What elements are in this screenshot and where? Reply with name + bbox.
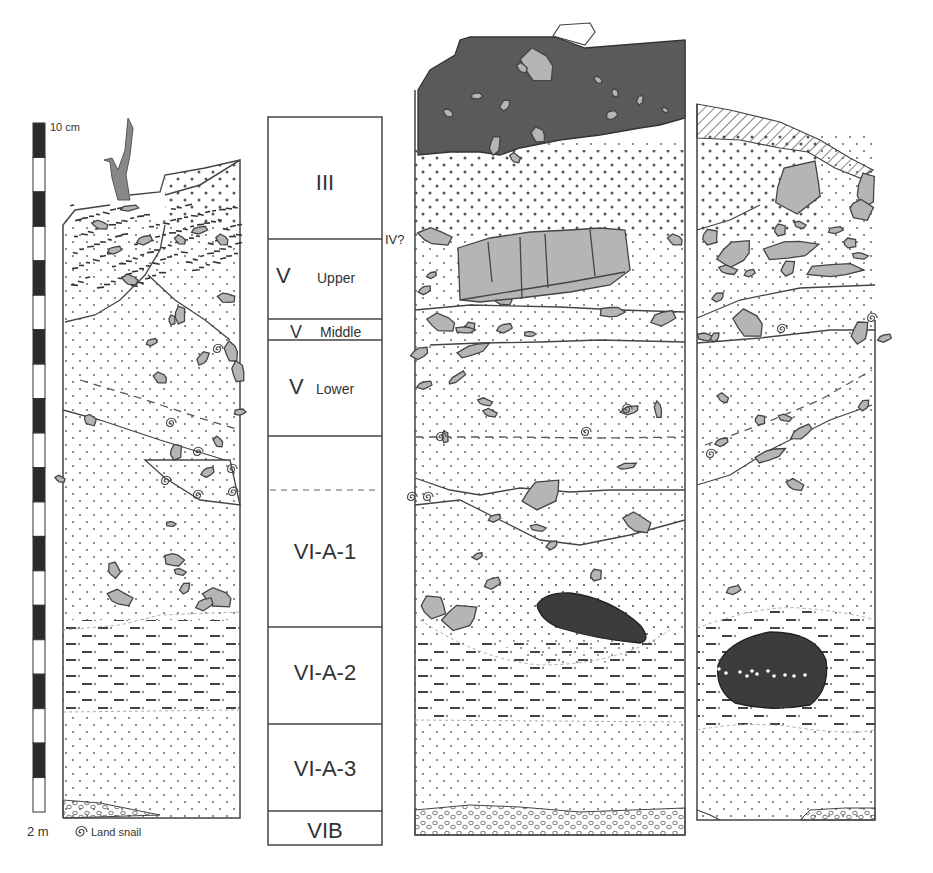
layer-VI-A-1: VI-A-1 [294, 539, 356, 564]
stratigraphic-diagram: 10 cm 2 m Land snail [0, 0, 933, 873]
right-profile [697, 104, 891, 820]
inclusion-dot [724, 671, 728, 675]
debris-fleck [96, 213, 100, 215]
layer-IV-annotation: IV? [385, 232, 405, 247]
debris-fleck [94, 244, 100, 246]
layer-VI-A-3: VI-A-3 [294, 756, 356, 781]
scale-segment [33, 364, 45, 398]
layer-VIB-label: VIB [307, 818, 342, 843]
scale-bottom-label: 2 m [27, 824, 49, 839]
debris-fleck [134, 244, 138, 246]
scale-segment [33, 192, 45, 226]
stone [591, 569, 602, 581]
scale-segment [33, 295, 45, 329]
debris-fleck [189, 237, 194, 239]
debris-fleck [139, 268, 144, 270]
layer-V-middle-label: V [290, 322, 302, 342]
layer-VI-A-3-label: VI-A-3 [294, 756, 356, 781]
layer-III-label: III [316, 170, 334, 195]
layer-V-upper-sublabel: Upper [317, 270, 355, 286]
debris-fleck [103, 211, 110, 214]
debris-fleck [130, 217, 134, 219]
scale-segment [33, 778, 45, 812]
layer-V-lower-label: V [289, 374, 304, 399]
scale-segment [33, 433, 45, 467]
inclusion-dot [745, 674, 749, 678]
scale-segment [33, 226, 45, 260]
layer-V-upper-label: V [276, 263, 291, 288]
debris-fleck [89, 215, 94, 217]
layer-VI-A-2: VI-A-2 [294, 660, 356, 685]
scale-segment [33, 605, 45, 639]
inclusion-dot [792, 674, 796, 678]
scale-segment [33, 502, 45, 536]
layer-V-middle-sublabel: Middle [320, 324, 361, 340]
debris-fleck [174, 254, 178, 256]
inclusion-dot [783, 673, 787, 677]
stone [703, 229, 717, 245]
legend: Land snail [76, 826, 141, 838]
inclusion-dot [717, 667, 721, 671]
stone [169, 315, 175, 325]
debris-fleck [137, 215, 144, 217]
stratigraphic-column: III V Upper V Middle V Lower VI-A-1 VI-A… [268, 117, 405, 845]
stone [844, 238, 856, 248]
scale-segment [33, 261, 45, 295]
debris-fleck [74, 236, 78, 238]
debris-fleck [199, 267, 204, 269]
layer-V-lower-sublabel: Lower [316, 381, 354, 397]
scale-segment [33, 674, 45, 708]
debris-fleck [149, 226, 154, 228]
stone [612, 89, 618, 97]
layer-V-middle: V Middle [290, 322, 361, 342]
layer-III: III [316, 170, 334, 195]
scale-bar [33, 123, 45, 812]
inclusion-dot [755, 672, 759, 676]
scale-segment [33, 330, 45, 364]
stone [878, 334, 892, 342]
debris-fleck [219, 209, 226, 211]
scale-segment [33, 399, 45, 433]
debris-fleck [144, 214, 150, 216]
debris-fleck [104, 284, 110, 286]
layer-VIB: VIB [307, 818, 342, 843]
legend-label-land-snail: Land snail [91, 826, 141, 838]
debris-fleck [234, 253, 238, 255]
inclusion-dot [803, 673, 807, 677]
stone [775, 224, 785, 236]
stone [171, 444, 182, 460]
center-profile [408, 23, 686, 835]
inclusion-dot [766, 669, 770, 673]
scale-segment [33, 468, 45, 502]
debris-fleck [110, 208, 116, 211]
scale-segment [33, 536, 45, 570]
debris-fleck [204, 222, 210, 224]
scale-segment [33, 709, 45, 743]
inclusion-dot [750, 669, 754, 673]
inclusion-dot [772, 674, 776, 678]
debris-fleck [109, 224, 116, 226]
stone [525, 332, 537, 337]
scale-top-label: 10 cm [50, 121, 80, 133]
scale-segment [33, 743, 45, 777]
stone [235, 409, 247, 415]
debris-fleck [82, 217, 88, 219]
debris-fleck [214, 250, 220, 252]
layer-VI-A-1-label: VI-A-1 [294, 539, 356, 564]
scale-segment [33, 571, 45, 605]
scale-segment [33, 640, 45, 674]
land-snail-icon [76, 827, 87, 837]
scale-segment [33, 123, 45, 157]
debris-fleck [70, 204, 74, 206]
left-profile [55, 118, 246, 818]
stone [175, 306, 184, 324]
stone [755, 415, 764, 425]
debris-fleck [119, 263, 126, 265]
debris-fleck [229, 236, 236, 238]
debris-fleck [79, 265, 84, 267]
scale-segment [33, 157, 45, 191]
debris-fleck [169, 232, 176, 234]
layer-VI-A-2-label: VI-A-2 [294, 660, 356, 685]
stone [121, 205, 139, 211]
inclusion-dot [738, 670, 742, 674]
